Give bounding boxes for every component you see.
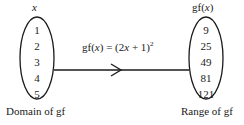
mapping-formula: gf(x) = (2x + 1)2 [82,40,154,53]
domain-value: 4 [22,72,52,84]
range-header: gf(x) [192,1,213,13]
domain-value: 1 [22,24,52,36]
domain-header: x [32,1,37,13]
formula-eq: ) = (2 [100,41,125,53]
range-value: 25 [191,40,221,52]
domain-value: 3 [22,56,52,68]
formula-rest: + 1) [129,41,150,53]
range-value: 81 [191,72,221,84]
domain-value: 5 [22,88,52,100]
domain-caption: Domain of gf [6,105,65,117]
range-header-fn: gf( [192,1,205,13]
formula-fn: gf( [82,41,95,53]
range-value: 121 [191,88,221,100]
range-header-close: ) [210,1,214,13]
domain-value: 2 [22,40,52,52]
range-value: 9 [191,24,221,36]
formula-exponent: 2 [150,40,154,48]
range-value: 49 [191,56,221,68]
range-caption: Range of gf [181,105,233,117]
